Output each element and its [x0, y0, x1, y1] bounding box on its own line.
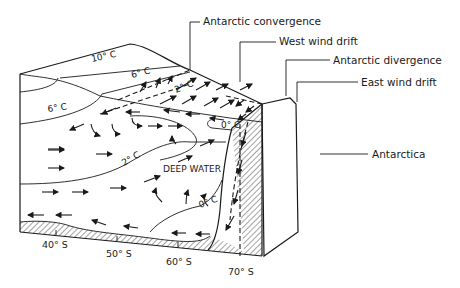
isotherm-0c-top: 0° C: [221, 120, 240, 130]
callout-antarctic-divergence: Antarctic divergence: [333, 54, 442, 66]
isotherm-6c-side: 6° C: [47, 101, 68, 114]
callout-east-wind-drift: East wind drift: [361, 76, 437, 88]
callout-west-wind-drift: West wind drift: [279, 35, 358, 47]
latitude-40s: 40° S: [42, 239, 68, 250]
callout-antarctica: Antarctica: [372, 148, 426, 160]
isotherm-labels: 10° C 6° C 6° C 2° C 2° C 0° C 0° C: [47, 49, 240, 210]
isotherm-6c-top: 6° C: [130, 66, 151, 80]
deep-water-label: DEEP WATER: [163, 164, 221, 174]
callout-antarctic-convergence: Antarctic convergence: [203, 15, 321, 27]
isotherm-0c-side: 0° C: [197, 194, 219, 210]
isotherm-10c-top: 10° C: [90, 49, 117, 64]
latitude-60s: 60° S: [166, 256, 192, 267]
isotherm-2c-side: 2° C: [120, 149, 142, 167]
latitude-50s: 50° S: [106, 248, 132, 259]
latitude-70s: 70° S: [228, 266, 254, 277]
ocean-circulation-diagram: 10° C 6° C 6° C 2° C 2° C 0° C 0° C DEEP…: [0, 0, 460, 288]
isotherm-2c-top: 2° C: [173, 78, 195, 95]
